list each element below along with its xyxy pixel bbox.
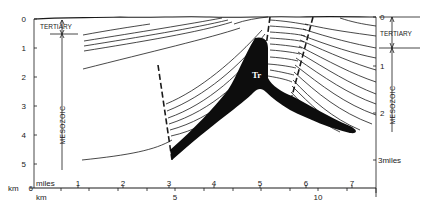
left-axis-tick-label: 5 xyxy=(22,160,27,169)
cross-section-diagram: 0 1 2 3 4 5 6 km 0 1 2 3miles miles 1 2 … xyxy=(0,0,433,214)
right-axis-tick-label: 0 xyxy=(380,13,385,22)
left-axis-tick-label: 3 xyxy=(22,102,27,111)
bottom-miles-tick: 7 xyxy=(350,179,355,188)
bottom-miles-tick: 6 xyxy=(304,179,309,188)
left-unit-brackets xyxy=(50,20,78,170)
right-axis-ticks xyxy=(373,17,376,160)
bottom-miles-tick: 1 xyxy=(76,179,81,188)
central-strata xyxy=(268,20,308,82)
bottom-miles-label: miles xyxy=(36,179,55,188)
left-axis-tick-label: 0 xyxy=(22,15,27,24)
right-axis-tick-label: 2 xyxy=(380,109,385,118)
salt-triassic-label: Tr xyxy=(252,70,261,80)
right-tertiary-label: TERTIARY xyxy=(380,30,413,37)
left-axis-tick-label: 1 xyxy=(22,44,27,53)
salt-body xyxy=(170,37,356,160)
bottom-miles-tick: 4 xyxy=(212,179,217,188)
left-tertiary-label: TERTIARY xyxy=(40,23,73,30)
bottom-miles-tick: 5 xyxy=(258,179,263,188)
bottom-km-tick: 10 xyxy=(314,193,323,202)
left-mesozoic-label: MESOZOIC xyxy=(59,106,66,145)
bottom-km-label: km xyxy=(36,193,47,202)
right-axis-tick-label: 1 xyxy=(380,62,385,71)
left-axis-unit-label: km xyxy=(8,184,19,193)
east-fault xyxy=(292,17,313,96)
left-axis-tick-label: 2 xyxy=(22,73,27,82)
bottom-axis-ticks xyxy=(61,185,376,197)
left-axis-tick-label: 6 xyxy=(29,184,34,193)
bottom-km-tick: 5 xyxy=(173,193,178,202)
left-axis-tick-label: 4 xyxy=(22,131,27,140)
right-mesozoic-label: MESOZOIC xyxy=(389,86,396,125)
ground-surface xyxy=(34,17,376,19)
left-axis-ticks xyxy=(34,19,37,164)
right-axis-tick-label: 3miles xyxy=(378,156,401,165)
left-strata xyxy=(83,18,240,69)
bottom-miles-tick: 3 xyxy=(167,179,172,188)
bottom-miles-tick: 2 xyxy=(121,179,126,188)
